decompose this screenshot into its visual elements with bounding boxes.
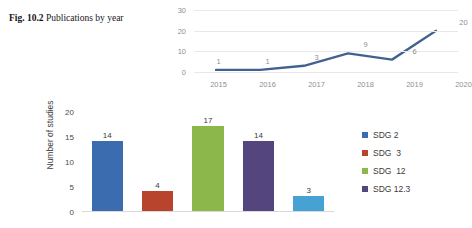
line-chart-series-publications bbox=[194, 10, 458, 72]
line-chart-x-tick-label: 2017 bbox=[308, 80, 325, 89]
bar-chart-y-tick-label: 15 bbox=[56, 133, 74, 142]
legend-item-label: SDG 12.3 bbox=[373, 184, 410, 194]
line-chart-x-tick-label: 2019 bbox=[406, 80, 423, 89]
legend-item-label: SDG 12 bbox=[373, 166, 406, 176]
line-chart-data-label: 6 bbox=[412, 47, 416, 56]
bar-chart-y-axis: 05101520 bbox=[56, 112, 74, 212]
bar-chart-bar bbox=[293, 196, 324, 211]
figure-caption-label: Fig. 10.2 bbox=[9, 13, 44, 23]
legend-item-label: SDG 3 bbox=[373, 148, 401, 158]
bar-chart-data-label: 3 bbox=[307, 186, 311, 195]
bar-chart-data-label: 4 bbox=[155, 181, 159, 190]
bar-chart-bar bbox=[142, 191, 173, 211]
bar-chart-y-tick-label: 0 bbox=[56, 208, 74, 217]
bar-chart-y-axis-title: Number of studies bbox=[45, 87, 55, 183]
line-chart-gridline bbox=[194, 10, 458, 11]
line-chart-y-tick-label: 10 bbox=[166, 47, 186, 56]
line-chart-y-tick-label: 30 bbox=[166, 6, 186, 15]
legend-swatch-icon bbox=[362, 186, 368, 192]
legend-swatch-icon bbox=[362, 168, 368, 174]
line-chart-x-tick-label: 2020 bbox=[455, 80, 472, 89]
legend-item[interactable]: SDG 12 bbox=[362, 162, 458, 180]
figure-caption: Fig. 10.2 Publications by year bbox=[9, 12, 159, 25]
bar-chart-y-tick-label: 20 bbox=[56, 108, 74, 117]
bar-chart-data-label: 14 bbox=[103, 131, 112, 140]
legend-swatch-icon bbox=[362, 132, 368, 138]
line-chart-gridline bbox=[194, 31, 458, 32]
line-chart-data-label: 1 bbox=[216, 57, 220, 66]
line-chart-y-tick-label: 0 bbox=[166, 68, 186, 77]
line-chart-x-tick-label: 2015 bbox=[210, 80, 227, 89]
legend-item-label: SDG 2 bbox=[373, 130, 399, 140]
figure-caption-text: Publications by year bbox=[46, 13, 124, 23]
legend-item[interactable]: SDG 2 bbox=[362, 126, 458, 144]
line-chart-data-label: 20 bbox=[459, 18, 467, 27]
bar-chart-baseline bbox=[82, 211, 334, 212]
line-chart-x-tick-label: 2018 bbox=[357, 80, 374, 89]
line-chart-data-label: 1 bbox=[265, 57, 269, 66]
bar-chart-legend: SDG 2SDG 3SDG 12SDG 12.3 bbox=[362, 126, 458, 198]
line-chart-plot-area: 1201512016320179201862019202020 bbox=[194, 10, 458, 72]
line-chart-gridline bbox=[194, 51, 458, 52]
line-chart-x-tick-label: 2016 bbox=[259, 80, 276, 89]
bar-chart-bar bbox=[243, 141, 274, 211]
line-chart-publications-by-year: 0102030 1201512016320179201862019202020 bbox=[166, 6, 458, 92]
bar-chart-bar bbox=[192, 126, 223, 211]
bar-chart-data-label: 14 bbox=[254, 131, 263, 140]
bar-chart-bar bbox=[92, 141, 123, 211]
bar-chart-y-tick-label: 5 bbox=[56, 183, 74, 192]
legend-item[interactable]: SDG 3 bbox=[362, 144, 458, 162]
bar-chart-studies-by-sdg: Number of studies 05101520 14417143 bbox=[38, 112, 338, 224]
bar-chart-y-tick-label: 10 bbox=[56, 158, 74, 167]
line-chart-data-label: 3 bbox=[314, 53, 318, 62]
bar-chart-plot-area: 14417143 bbox=[82, 112, 334, 212]
line-chart-y-tick-label: 20 bbox=[166, 26, 186, 35]
bar-chart-data-label: 17 bbox=[204, 116, 213, 125]
line-chart-data-label: 9 bbox=[363, 40, 367, 49]
legend-swatch-icon bbox=[362, 150, 368, 156]
legend-item[interactable]: SDG 12.3 bbox=[362, 180, 458, 198]
line-chart-gridline bbox=[194, 72, 458, 73]
